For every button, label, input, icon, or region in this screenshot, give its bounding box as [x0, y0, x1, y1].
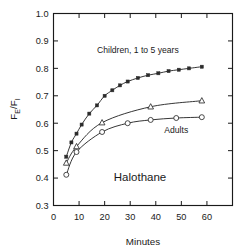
chart-figure: 0.30.40.50.60.70.80.91.0 0102030405060 C… — [0, 0, 244, 251]
y-tick-label-2: 0.5 — [36, 146, 49, 156]
marker-0-4 — [88, 112, 91, 115]
marker-2-1 — [74, 150, 79, 155]
marker-0-9 — [126, 80, 129, 83]
y-tick-label-6: 0.9 — [36, 36, 49, 46]
marker-0-15 — [187, 67, 190, 70]
marker-2-2 — [100, 129, 105, 134]
x-axis-title: Minutes — [126, 236, 160, 247]
halothane-label: Halothane — [114, 171, 166, 183]
marker-0-6 — [103, 94, 106, 97]
marker-0-14 — [177, 68, 180, 71]
marker-0-13 — [167, 70, 170, 73]
svg-text:FE/FI: FE/FI — [8, 98, 21, 119]
marker-0-12 — [157, 72, 160, 75]
marker-0-0 — [65, 155, 68, 158]
x-tick-label-6: 60 — [202, 212, 212, 222]
y-title-sub-I: I — [14, 98, 21, 100]
marker-2-3 — [125, 121, 130, 126]
marker-0-10 — [136, 76, 139, 79]
y-tick-label-4: 0.7 — [36, 91, 49, 101]
x-tick-label-0: 0 — [51, 212, 56, 222]
marker-0-1 — [70, 141, 73, 144]
halothane-uptake-chart: 0.30.40.50.60.70.80.91.0 0102030405060 C… — [0, 0, 244, 251]
x-tick-label-5: 50 — [176, 212, 186, 222]
y-axis-title: FE/FI — [8, 98, 21, 119]
y-tick-label-7: 1.0 — [36, 9, 49, 19]
x-tick-label-1: 10 — [74, 212, 84, 222]
marker-0-8 — [118, 84, 121, 87]
marker-0-7 — [111, 89, 114, 92]
y-tick-label-3: 0.6 — [36, 119, 49, 129]
marker-0-5 — [95, 104, 98, 107]
y-tick-label-0: 0.3 — [36, 201, 49, 211]
marker-0-2 — [75, 132, 78, 135]
marker-2-4 — [148, 117, 153, 122]
marker-2-0 — [64, 172, 69, 177]
series-label-0: Children, 1 to 5 years — [97, 45, 179, 55]
marker-0-11 — [147, 74, 150, 77]
y-tick-label-1: 0.4 — [36, 173, 49, 183]
marker-0-16 — [200, 65, 203, 68]
x-tick-label-3: 30 — [125, 212, 135, 222]
x-tick-label-2: 20 — [100, 212, 110, 222]
series-label-2: Adults — [164, 125, 188, 135]
marker-0-3 — [80, 123, 83, 126]
y-tick-label-5: 0.8 — [36, 64, 49, 74]
marker-2-6 — [199, 115, 204, 120]
x-tick-label-4: 40 — [151, 212, 161, 222]
marker-2-5 — [174, 116, 179, 121]
